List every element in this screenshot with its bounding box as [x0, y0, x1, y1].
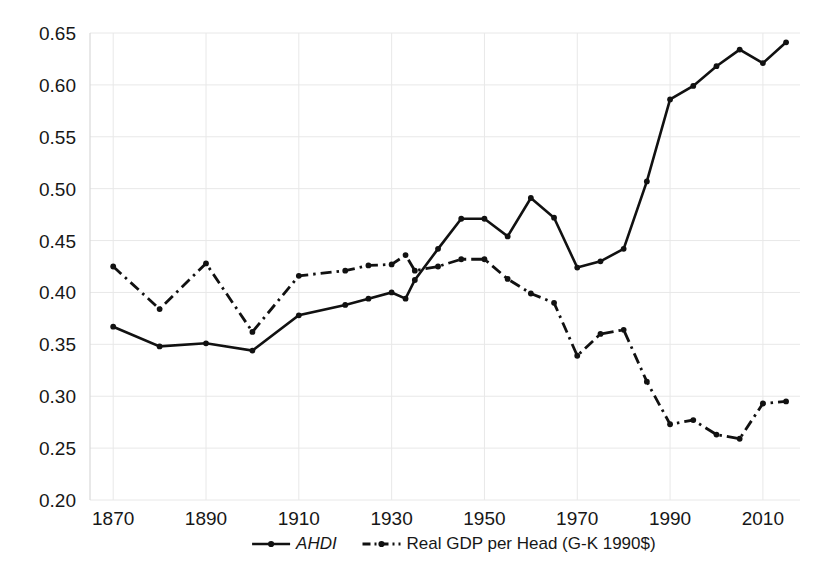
- data-point-marker: [389, 262, 395, 268]
- data-point-marker: [737, 436, 743, 442]
- x-axis-tick-label: 1930: [370, 508, 412, 529]
- y-axis-tick-label: 0.45: [39, 231, 76, 252]
- data-point-marker: [157, 344, 163, 350]
- legend-marker-dot: [378, 541, 384, 547]
- data-point-marker: [621, 327, 627, 333]
- y-axis-tick-label: 0.50: [39, 179, 76, 200]
- data-point-marker: [296, 273, 302, 279]
- data-point-marker: [110, 324, 116, 330]
- data-point-marker: [435, 264, 441, 270]
- data-point-marker: [783, 39, 789, 45]
- data-point-marker: [389, 290, 395, 296]
- y-axis-tick-label: 0.20: [39, 490, 76, 511]
- data-point-marker: [690, 417, 696, 423]
- data-point-marker: [296, 312, 302, 318]
- x-axis-tick-label: 1890: [185, 508, 227, 529]
- legend-item-2[interactable]: Real GDP per Head (G-K 1990$): [363, 534, 656, 553]
- x-axis-tick-label: 1870: [92, 508, 134, 529]
- legend-label: AHDI: [295, 534, 337, 553]
- data-point-marker: [551, 215, 557, 221]
- data-point-marker: [644, 179, 650, 185]
- x-axis-tick-label: 1970: [556, 508, 598, 529]
- data-point-marker: [574, 353, 580, 359]
- y-axis-tick-label: 0.55: [39, 127, 76, 148]
- data-point-marker: [505, 234, 511, 240]
- x-axis-tick-label: 1910: [278, 508, 320, 529]
- data-point-marker: [342, 302, 348, 308]
- data-point-marker: [760, 401, 766, 407]
- data-point-marker: [366, 296, 372, 302]
- legend-label: Real GDP per Head (G-K 1990$): [407, 534, 656, 553]
- data-point-marker: [403, 296, 409, 302]
- data-point-marker: [412, 277, 418, 283]
- legend-marker-dot: [268, 541, 274, 547]
- chart-container: 0.200.250.300.350.400.450.500.550.600.65…: [0, 0, 821, 573]
- data-point-marker: [157, 306, 163, 312]
- data-point-marker: [760, 60, 766, 66]
- data-point-marker: [403, 252, 409, 258]
- data-point-marker: [690, 83, 696, 89]
- data-point-marker: [203, 340, 209, 346]
- chart-legend: AHDIReal GDP per Head (G-K 1990$): [252, 534, 656, 553]
- data-point-marker: [250, 329, 256, 335]
- x-axis-tick-label: 1950: [463, 508, 505, 529]
- data-point-marker: [482, 216, 488, 222]
- data-point-marker: [598, 331, 604, 337]
- data-point-marker: [250, 348, 256, 354]
- y-axis-tick-label: 0.40: [39, 282, 76, 303]
- data-point-marker: [203, 260, 209, 266]
- data-point-marker: [458, 256, 464, 262]
- data-point-marker: [598, 258, 604, 264]
- x-axis-tick-label: 2010: [742, 508, 784, 529]
- data-point-marker: [714, 432, 720, 438]
- data-point-marker: [667, 421, 673, 427]
- data-point-marker: [551, 300, 557, 306]
- y-axis-tick-label: 0.65: [39, 23, 76, 44]
- data-point-marker: [574, 265, 580, 271]
- data-point-marker: [458, 216, 464, 222]
- x-axis-tick-label: 1990: [649, 508, 691, 529]
- line-chart: 0.200.250.300.350.400.450.500.550.600.65…: [0, 0, 821, 573]
- data-point-marker: [412, 268, 418, 274]
- data-point-marker: [737, 47, 743, 53]
- y-axis-tick-label: 0.60: [39, 75, 76, 96]
- y-axis-tick-label: 0.30: [39, 386, 76, 407]
- data-point-marker: [783, 399, 789, 405]
- data-point-marker: [505, 276, 511, 282]
- data-point-marker: [342, 268, 348, 274]
- data-point-marker: [528, 195, 534, 201]
- data-point-marker: [714, 63, 720, 69]
- data-point-marker: [621, 246, 627, 252]
- data-point-marker: [482, 256, 488, 262]
- data-point-marker: [435, 246, 441, 252]
- data-point-marker: [110, 264, 116, 270]
- data-point-marker: [528, 291, 534, 297]
- data-point-marker: [366, 263, 372, 269]
- data-point-marker: [667, 97, 673, 103]
- y-axis-tick-label: 0.35: [39, 334, 76, 355]
- y-axis-tick-label: 0.25: [39, 438, 76, 459]
- data-point-marker: [644, 379, 650, 385]
